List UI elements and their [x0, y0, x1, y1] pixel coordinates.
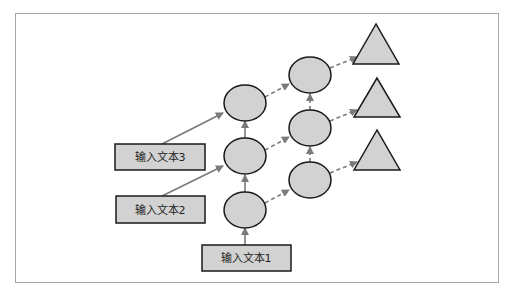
- output-triangle-top: [353, 24, 399, 64]
- node-l2-top: [289, 57, 331, 93]
- diagram-canvas: 输入文本3 输入文本2 输入文本1: [0, 0, 511, 294]
- hidden-layer-1: [224, 85, 266, 228]
- arrow-l2-middle-to-out-middle: [330, 110, 357, 121]
- node-l2-bottom: [289, 162, 331, 198]
- output-layer: [353, 24, 400, 170]
- output-triangle-middle: [354, 78, 400, 117]
- arrow-input3-to-l1-top: [162, 113, 223, 144]
- arrow-l2-top-to-out-top: [330, 57, 357, 68]
- node-l1-middle: [224, 138, 266, 174]
- arrow-l1-top-to-l2-top: [265, 84, 289, 97]
- node-l2-middle: [289, 110, 331, 146]
- arrow-l1-bottom-to-l2-bottom: [265, 190, 289, 203]
- hidden-layer-2: [289, 57, 331, 198]
- arrow-l1-middle-to-l2-middle: [265, 137, 289, 150]
- arrow-l2-bottom-to-out-bottom: [330, 162, 357, 173]
- output-triangle-bottom: [354, 130, 400, 170]
- node-l1-bottom: [224, 192, 266, 228]
- node-l1-top: [224, 85, 266, 121]
- input-box-1-label: 输入文本1: [221, 251, 272, 265]
- input-box-2-label: 输入文本2: [135, 203, 186, 217]
- input-box-3-label: 输入文本3: [135, 150, 186, 164]
